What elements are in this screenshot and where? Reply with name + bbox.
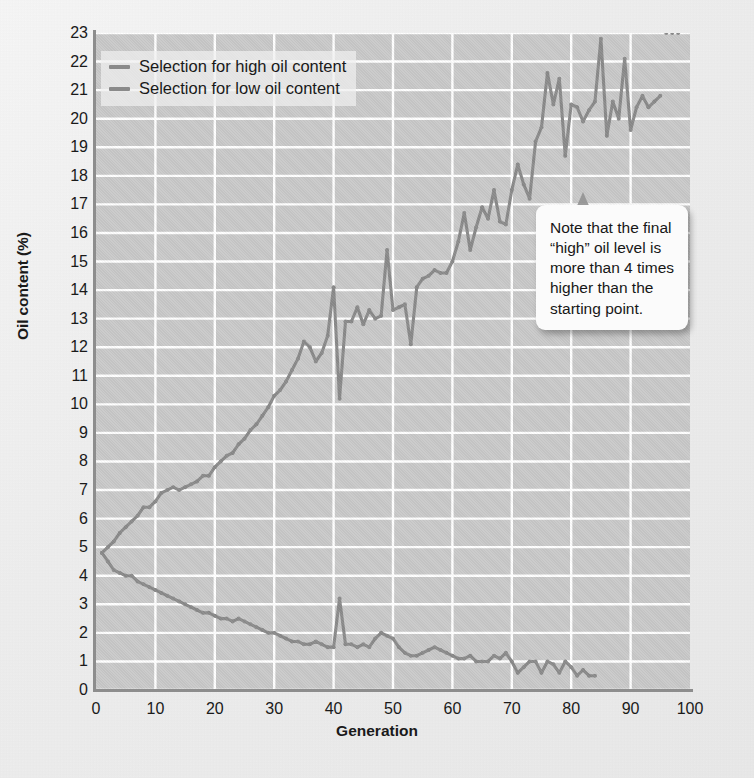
- series-point: [635, 105, 639, 109]
- series-point: [593, 674, 597, 678]
- series-point: [361, 322, 365, 326]
- series-point: [456, 657, 460, 661]
- series-point: [320, 351, 324, 355]
- series-point: [332, 285, 336, 289]
- series-point: [302, 340, 306, 344]
- series-point: [391, 308, 395, 312]
- series-point: [373, 637, 377, 641]
- series-point: [183, 602, 187, 606]
- series-point: [361, 642, 365, 646]
- series-point: [468, 248, 472, 252]
- series-point: [243, 437, 247, 441]
- series-point: [528, 197, 532, 201]
- series-point: [171, 485, 175, 489]
- series-line-1: [102, 553, 595, 676]
- series-point: [569, 665, 573, 669]
- series-point: [195, 608, 199, 612]
- series-point: [581, 668, 585, 672]
- series-point: [611, 100, 615, 104]
- series-point: [106, 545, 110, 549]
- series-point: [100, 551, 104, 555]
- x-tick-label: 50: [384, 701, 402, 717]
- series-point: [492, 654, 496, 658]
- legend-item-1: Selection for low oil content: [109, 79, 346, 98]
- series-point: [492, 188, 496, 192]
- series-point: [480, 205, 484, 209]
- series-point: [225, 454, 229, 458]
- series-point: [326, 645, 330, 649]
- series-point: [563, 154, 567, 158]
- legend-line-swatch-icon: [109, 87, 130, 91]
- series-point: [456, 240, 460, 244]
- series-point: [522, 665, 526, 669]
- series-point: [516, 671, 520, 675]
- series-point: [540, 125, 544, 129]
- legend-item-0: Selection for high oil content: [109, 57, 346, 76]
- series-point: [658, 94, 662, 98]
- series-point: [243, 619, 247, 623]
- series-point: [302, 642, 306, 646]
- series-point: [142, 505, 146, 509]
- series-point: [664, 33, 668, 35]
- series-point: [397, 645, 401, 649]
- series-point: [248, 622, 252, 626]
- series-point: [183, 485, 187, 489]
- series-point: [165, 594, 169, 598]
- series-point: [112, 568, 116, 572]
- series-point: [165, 488, 169, 492]
- legend-item-label: Selection for high oil content: [139, 57, 346, 76]
- annotation-callout: Note that the final “high” oil level is …: [536, 205, 688, 330]
- series-point: [272, 394, 276, 398]
- series-point: [444, 651, 448, 655]
- series-point: [587, 108, 591, 112]
- series-point: [545, 659, 549, 663]
- series-point: [551, 662, 555, 666]
- series-point: [278, 634, 282, 638]
- series-point: [219, 617, 223, 621]
- series-point: [397, 305, 401, 309]
- series-point: [498, 220, 502, 224]
- series-point: [415, 654, 419, 658]
- series-point: [118, 571, 122, 575]
- series-point: [676, 33, 680, 35]
- series-point: [593, 100, 597, 104]
- series-point: [266, 405, 270, 409]
- series-point: [207, 611, 211, 615]
- series-point: [391, 637, 395, 641]
- series-point: [278, 388, 282, 392]
- series-point: [177, 488, 181, 492]
- series-point: [254, 625, 258, 629]
- series-point: [534, 659, 538, 663]
- series-point: [498, 657, 502, 661]
- series-point: [415, 285, 419, 289]
- series-point: [486, 659, 490, 663]
- series-point: [629, 128, 633, 132]
- series-point: [136, 579, 140, 583]
- series-point: [147, 585, 151, 589]
- series-point: [237, 442, 241, 446]
- x-tick-label: 90: [622, 701, 640, 717]
- series-point: [272, 631, 276, 635]
- legend-item-label: Selection for low oil content: [139, 79, 340, 98]
- series-point: [153, 588, 157, 592]
- x-axis-spine: [93, 689, 693, 692]
- chart-figure: Oil content (%) 012345678910111213141516…: [0, 0, 754, 778]
- series-point: [201, 611, 205, 615]
- series-point: [468, 654, 472, 658]
- series-point: [462, 657, 466, 661]
- series-point: [314, 360, 318, 364]
- series-point: [332, 645, 336, 649]
- series-point: [355, 645, 359, 649]
- series-point: [379, 631, 383, 635]
- series-point: [237, 617, 241, 621]
- series-point: [314, 639, 318, 643]
- series-point: [153, 499, 157, 503]
- series-point: [159, 591, 163, 595]
- series-point: [207, 474, 211, 478]
- series-point: [171, 597, 175, 601]
- series-point: [254, 422, 258, 426]
- series-point: [147, 505, 151, 509]
- series-point: [343, 642, 347, 646]
- series-point: [563, 659, 567, 663]
- series-point: [385, 634, 389, 638]
